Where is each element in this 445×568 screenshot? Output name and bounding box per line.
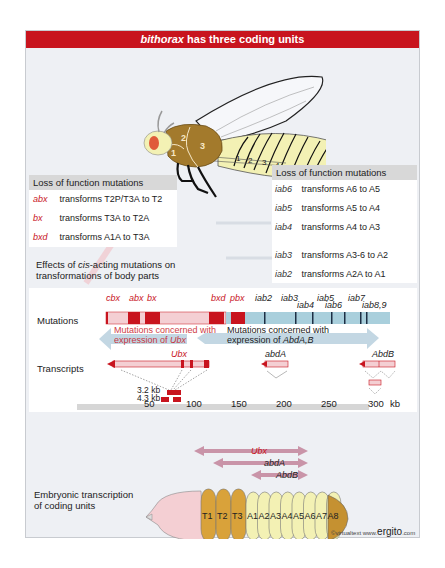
abda-domain-arrow — [213, 458, 308, 468]
scale-tick: 50 — [144, 398, 155, 409]
abdb-domain-label: AbdB — [275, 470, 298, 480]
copyright-credit: ©virtualtext www.ergito.com — [331, 526, 415, 537]
segment-label: A2 — [259, 511, 270, 521]
mutation-effect: transforms A4 to A3 — [302, 222, 381, 232]
mutation-effect: transforms A2A to A1 — [302, 269, 386, 279]
scale-unit: kb — [390, 398, 400, 409]
abdomen-label: 2 — [248, 156, 253, 165]
figure-title: bithorax has three coding units — [26, 31, 419, 48]
legs — [178, 163, 217, 197]
effects-caption: Effects of cis-acting mutations on trans… — [36, 259, 175, 281]
mutation-name: iab2 — [272, 265, 299, 284]
segment-label: A1 — [247, 511, 258, 521]
mutation-name: bxd — [29, 228, 57, 247]
credit-suffix: .com — [402, 530, 415, 536]
abd-arrow-text: Mutations concerned with expression of A… — [227, 325, 329, 345]
mutation-effect: transforms A5 to A4 — [302, 203, 381, 213]
left-mutation-box: Loss of function mutations abx transform… — [29, 175, 177, 247]
caption-italic: cis — [78, 259, 90, 270]
abx-mark — [128, 312, 140, 324]
scale-tick: 300 — [368, 398, 384, 409]
thorax-label: 2 — [181, 133, 186, 143]
mutation-effect: transforms A3-6 to A2 — [302, 250, 389, 260]
cbx-mark — [106, 312, 108, 324]
abdb-short-transcript — [369, 380, 381, 385]
title-rest: has three coding units — [184, 33, 304, 45]
credit-brand: ergito — [377, 526, 402, 537]
pbx-mark — [231, 312, 245, 324]
mutation-name: iab6 — [272, 180, 299, 199]
scale-tick: 100 — [186, 398, 202, 409]
iab6-mark — [344, 312, 346, 324]
right-mutation-box: Loss of function mutations iab6 transfor… — [272, 165, 417, 283]
ubx-3-2kb-product — [167, 390, 181, 395]
arrow-text: Mutations concerned with — [227, 325, 329, 335]
abda-transcript-label: abdA — [265, 349, 286, 359]
arrow-text: expression of — [114, 335, 170, 345]
ubx-arrow-text: Mutations concerned with expression of U… — [114, 325, 216, 345]
segment-label: T3 — [232, 511, 243, 521]
abd-region-bar — [226, 312, 390, 324]
segment-label: A6 — [305, 511, 316, 521]
left-box-header: Loss of function mutations — [29, 175, 177, 190]
arrow-text: expression of — [227, 335, 283, 345]
iab4-mark — [312, 312, 314, 324]
mutation-name: iab4 — [272, 218, 299, 237]
mutation-effect: transforms A1A to T3A — [60, 232, 150, 242]
right-box-row: iab6 transforms A6 to A5 — [272, 180, 417, 199]
scale-tick: 250 — [321, 398, 337, 409]
iab2-mark — [264, 312, 266, 324]
iab3-mark — [295, 312, 297, 324]
mutation-effect: transforms T3A to T2A — [60, 213, 150, 223]
abdomen-label: 1 — [236, 154, 241, 163]
arrow-text-italic: AbdA,B — [283, 335, 314, 345]
segment-label: A3 — [270, 511, 281, 521]
mutation-name: iab3 — [272, 246, 299, 265]
right-box-row: iab3 transforms A3-6 to A2 — [272, 246, 417, 265]
abda-domain-label: abdA — [264, 458, 285, 468]
left-box-row: bxd transforms A1A to T3A — [29, 228, 177, 247]
caption-text: transformations of body parts — [36, 270, 159, 281]
gene-map-panel: Mutations Transcripts cbx abx bx bxd pbx… — [29, 288, 417, 412]
credit-prefix: ©virtualtext www. — [331, 530, 377, 536]
left-box-row: abx transforms T2P/T3A to T2 — [29, 190, 177, 209]
figure-frame: bithorax has three coding units 1 2 3 — [25, 30, 420, 538]
right-box-row: iab4 transforms A4 to A3 — [272, 218, 417, 237]
scale-tick: 150 — [231, 398, 247, 409]
segment-label: T2 — [217, 511, 228, 521]
segment-label: A5 — [293, 511, 304, 521]
eye — [149, 136, 159, 150]
gene-map-svg — [29, 288, 417, 412]
segment-label: A7 — [316, 511, 327, 521]
embryo-head — [146, 491, 204, 539]
arrow-text-italic: Ubx — [170, 335, 186, 345]
iab5-mark — [331, 312, 333, 324]
thorax-label: 1 — [171, 148, 176, 158]
arrow-text: Mutations concerned with — [114, 325, 216, 335]
abdomen-label: 3 — [262, 158, 267, 167]
thorax-label: 3 — [200, 141, 205, 151]
segment-label: A4 — [282, 511, 293, 521]
mutation-name: abx — [29, 190, 57, 209]
ubx-region-bar — [106, 312, 226, 324]
right-box-row: iab2 transforms A2A to A1 — [272, 265, 417, 284]
segment-label: A8 — [328, 511, 339, 521]
ubx-domain-label: Ubx — [251, 446, 268, 456]
right-box-header: Loss of function mutations — [272, 165, 417, 180]
mutation-name: iab5 — [272, 199, 299, 218]
bx-mark — [145, 312, 160, 324]
left-box-row: bx transforms T3A to T2A — [29, 209, 177, 228]
mutation-effect: transforms A6 to A5 — [302, 184, 381, 194]
ubx-4-3kb-product — [161, 397, 169, 402]
right-box-row: iab5 transforms A5 to A4 — [272, 199, 417, 218]
scale-tick: 200 — [276, 398, 292, 409]
mutation-name: bx — [29, 209, 57, 228]
bxd-mark — [209, 312, 224, 324]
caption-text: Effects of — [36, 259, 78, 270]
mutation-effect: transforms T2P/T3A to T2 — [60, 194, 163, 204]
iab7-mark — [360, 312, 362, 324]
embryo-diagram: Ubx abdA AbdB T1T2T3A1A2A3A4A5A6A7A8 — [26, 443, 419, 539]
caption-text: -acting mutations on — [90, 259, 176, 270]
abda-transcript — [265, 361, 288, 367]
ubx-transcript-label: Ubx — [171, 349, 187, 359]
